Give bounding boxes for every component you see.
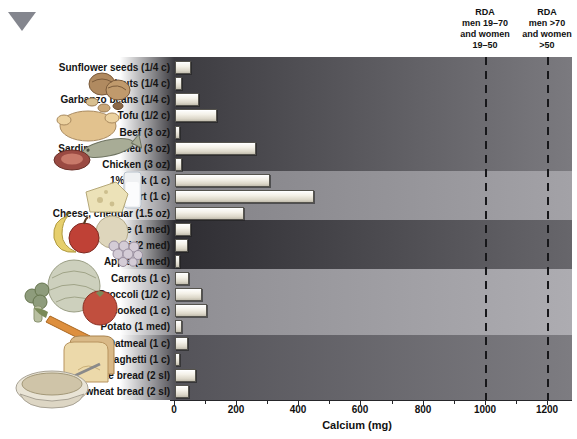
calcium-bar-chart-figure: RDA men 19–70 and women 19–50 RDA men >7… — [0, 0, 577, 439]
bar — [175, 272, 189, 285]
rda-label-1200: RDA men >70 and women >50 — [516, 7, 577, 51]
x-tick-label: 1000 — [463, 404, 507, 415]
rda-label-line: men >70 — [516, 18, 577, 29]
bar — [175, 174, 270, 187]
x-tick-label: 0 — [152, 404, 196, 415]
protein-icon — [50, 106, 142, 174]
bar — [175, 255, 180, 268]
x-tick-minor — [329, 400, 330, 404]
x-axis-line — [170, 400, 572, 401]
x-tick-label: 1200 — [525, 404, 569, 415]
rda-label-line: RDA — [454, 7, 516, 18]
dairy-icon — [82, 170, 146, 216]
x-tick-minor — [454, 400, 455, 404]
rda-label-line: 19–50 — [454, 40, 516, 51]
bar — [175, 288, 202, 301]
section-triangle-icon — [8, 12, 36, 31]
bar — [175, 320, 182, 333]
rda-label-1000: RDA men 19–70 and women 19–50 — [454, 7, 516, 51]
grain-icon — [12, 334, 124, 412]
x-tick-label: 800 — [401, 404, 445, 415]
x-tick-minor — [205, 400, 206, 404]
rda-label-line: >50 — [516, 40, 577, 51]
bar — [175, 304, 207, 317]
rda-label-line: men 19–70 — [454, 18, 516, 29]
rda-label-line: and women — [454, 29, 516, 40]
x-tick-label: 200 — [214, 404, 258, 415]
x-axis-title: Calcium (mg) — [257, 419, 457, 431]
bar — [175, 207, 244, 220]
bar — [175, 223, 191, 236]
bar — [175, 77, 182, 90]
bar — [175, 61, 191, 74]
bar — [175, 126, 180, 139]
bar — [175, 142, 256, 155]
bar — [175, 109, 217, 122]
bar — [175, 158, 182, 171]
rda-label-line: and women — [516, 29, 577, 40]
x-tick-minor — [267, 400, 268, 404]
bar — [175, 93, 199, 106]
x-tick-label: 400 — [276, 404, 320, 415]
bar — [175, 190, 314, 203]
x-tick-minor — [392, 400, 393, 404]
x-tick-minor — [516, 400, 517, 404]
bar — [175, 369, 196, 382]
bar — [175, 337, 188, 350]
rda-label-line: RDA — [516, 7, 577, 18]
bar — [175, 353, 180, 366]
vegetable-icon — [16, 256, 126, 342]
bar — [175, 239, 188, 252]
x-tick-label: 600 — [338, 404, 382, 415]
bar — [175, 385, 189, 398]
